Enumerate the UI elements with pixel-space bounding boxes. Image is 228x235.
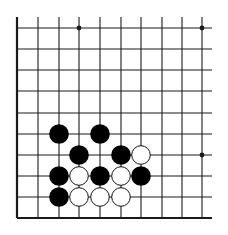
star-point-icon xyxy=(200,153,205,158)
white-stone[interactable] xyxy=(112,188,131,207)
go-board-grid[interactable] xyxy=(0,0,228,235)
white-stone[interactable] xyxy=(132,146,151,165)
black-stone[interactable] xyxy=(49,166,69,186)
black-stone[interactable] xyxy=(49,124,69,144)
black-stone[interactable] xyxy=(111,145,131,165)
black-stone[interactable] xyxy=(131,166,151,186)
star-point-icon xyxy=(200,26,205,31)
black-stone[interactable] xyxy=(90,166,110,186)
go-board[interactable] xyxy=(0,0,228,235)
white-stone[interactable] xyxy=(112,167,131,186)
black-stone[interactable] xyxy=(90,124,110,144)
white-stone[interactable] xyxy=(70,188,89,207)
black-stone[interactable] xyxy=(49,187,69,207)
star-point-icon xyxy=(77,26,82,31)
black-stone[interactable] xyxy=(69,145,89,165)
white-stone[interactable] xyxy=(70,167,89,186)
white-stone[interactable] xyxy=(91,188,110,207)
